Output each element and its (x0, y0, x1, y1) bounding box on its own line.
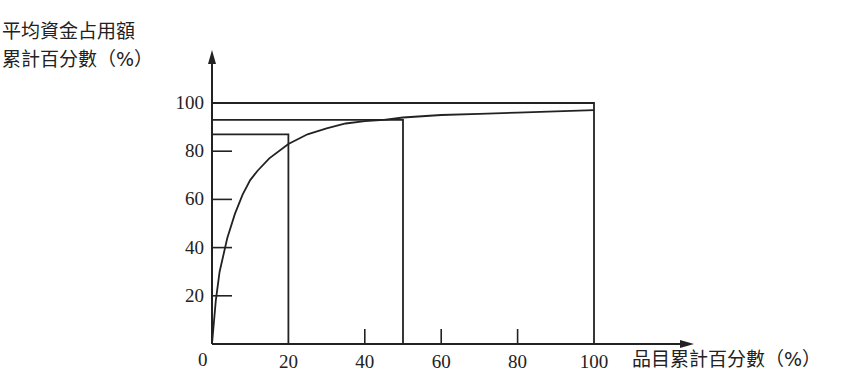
reference-lines (212, 103, 594, 344)
x-axis-label: 品目累計百分數（%） (632, 348, 821, 370)
x-tick-label: 20 (279, 351, 298, 372)
y-tick-label: 60 (185, 188, 204, 209)
reference-line (212, 134, 288, 344)
x-tick-label: 40 (355, 351, 374, 372)
x-axis-arrow-icon (680, 340, 694, 348)
x-tick-label: 100 (580, 351, 609, 372)
y-tick-label: 20 (185, 285, 204, 306)
y-axis-label-line1: 平均資金占用額 (2, 20, 135, 42)
y-axis (208, 50, 216, 344)
x-tick-label: 80 (508, 351, 527, 372)
x-tick-label: 60 (432, 351, 451, 372)
y-tick-label: 80 (185, 140, 204, 161)
y-ticks: 20406080100 (176, 92, 233, 306)
y-axis-arrow-icon (208, 50, 216, 64)
x-axis (212, 340, 694, 348)
x-ticks: 20406080100 (279, 329, 608, 372)
origin-label: 0 (198, 349, 208, 370)
reference-line (212, 120, 403, 344)
y-tick-label: 40 (185, 237, 204, 258)
y-axis-label-line2: 累計百分數（%） (2, 48, 153, 70)
abc-pareto-chart: 平均資金占用額 累計百分數（%） 20406080100 20406080100… (0, 0, 854, 390)
y-tick-label: 100 (176, 92, 205, 113)
